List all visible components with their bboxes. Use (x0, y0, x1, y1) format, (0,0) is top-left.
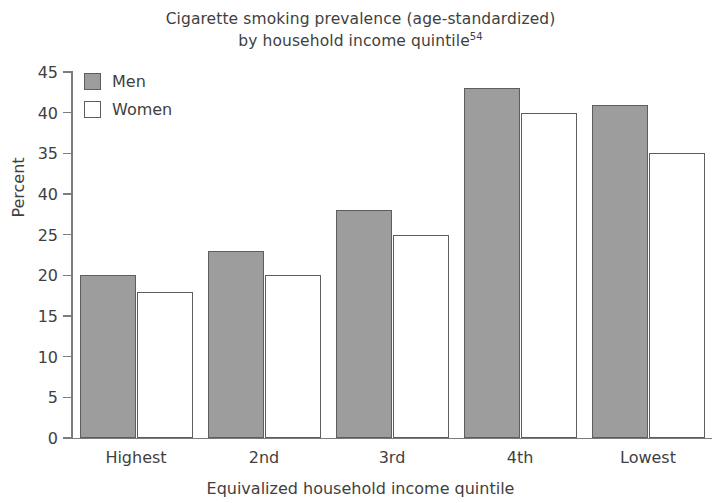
bar-lowest-women (649, 153, 705, 438)
chart-title-line-1: Cigarette smoking prevalence (age-standa… (0, 8, 721, 30)
x-axis-tick-label: Highest (105, 448, 166, 467)
legend-item-men: Men (84, 68, 172, 94)
bar-lowest-men (592, 105, 648, 438)
x-axis-tick-label: 4th (507, 448, 534, 467)
y-axis-tick-label: 15 (24, 307, 58, 326)
y-axis-tick-label: 40 (24, 185, 58, 204)
chart-title: Cigarette smoking prevalence (age-standa… (0, 8, 721, 53)
chart-legend: Men Women (84, 68, 172, 124)
bar-4th-men (464, 88, 520, 438)
bar-2nd-men (208, 251, 264, 438)
x-axis-title: Equivalized household income quintile (0, 479, 721, 498)
y-axis-tick-mark (63, 397, 72, 399)
chart-figure: Cigarette smoking prevalence (age-standa… (0, 0, 721, 503)
legend-label-men: Men (112, 72, 146, 91)
legend-swatch-women-icon (84, 101, 101, 118)
y-axis-tick-mark (63, 437, 72, 439)
y-axis-tick-label: 10 (24, 347, 58, 366)
bar-2nd-women (265, 275, 321, 438)
y-axis-tick-mark (63, 356, 72, 358)
y-axis-tick-mark (63, 153, 72, 155)
bar-highest-men (80, 275, 136, 438)
y-axis-tick-mark (63, 275, 72, 277)
legend-item-women: Women (84, 96, 172, 122)
y-axis-tick-label: 0 (24, 429, 58, 448)
bar-3rd-men (336, 210, 392, 438)
bar-highest-women (137, 292, 193, 438)
x-axis-tick-label: 3rd (379, 448, 406, 467)
bar-4th-women (521, 113, 577, 438)
y-axis-tick-label: 35 (24, 144, 58, 163)
y-axis-title: Percent (9, 118, 28, 258)
chart-title-superscript: 54 (470, 31, 483, 42)
plot-area (72, 72, 712, 438)
y-axis-tick-mark (63, 112, 72, 114)
legend-label-women: Women (112, 100, 172, 119)
chart-title-line-2: by household income quintile54 (0, 30, 721, 52)
chart-title-line-2-text: by household income quintile (238, 32, 470, 50)
y-axis-tick-label: 40 (24, 103, 58, 122)
bar-3rd-women (393, 235, 449, 438)
y-axis-tick-label: 20 (24, 266, 58, 285)
y-axis-tick-mark (63, 71, 72, 73)
y-axis-tick-mark (63, 234, 72, 236)
legend-swatch-men-icon (84, 73, 101, 90)
y-axis-tick-label: 5 (24, 388, 58, 407)
y-axis-tick-mark (63, 193, 72, 195)
y-axis-tick-mark (63, 315, 72, 317)
y-axis-tick-label: 25 (24, 225, 58, 244)
x-axis-tick-label: Lowest (620, 448, 676, 467)
y-axis-tick-label: 45 (24, 63, 58, 82)
x-axis-tick-label: 2nd (249, 448, 279, 467)
